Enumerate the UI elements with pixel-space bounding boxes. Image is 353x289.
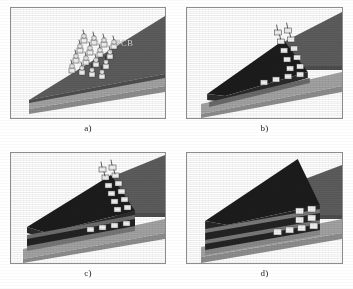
panel-b-illustration — [187, 8, 342, 118]
panel-d-caption: d) — [176, 268, 353, 278]
panel-d-illustration — [187, 153, 342, 263]
panel-b-frame — [186, 7, 343, 119]
panel-d-frame — [186, 152, 343, 264]
panel-a-caption: a) — [0, 123, 176, 133]
panel-c-frame — [10, 152, 166, 264]
panel-c-caption: c) — [0, 268, 176, 278]
panel-c-illustration — [11, 153, 165, 263]
panel-a-frame: PCB — [10, 7, 166, 119]
panel-a-illustration — [11, 8, 165, 118]
panel-b-caption: b) — [176, 123, 353, 133]
panel-grid: PCB a) — [0, 0, 353, 289]
panel-d: d) — [176, 145, 353, 289]
panel-a: PCB a) — [0, 0, 176, 145]
figure-container: PCB a) — [0, 0, 353, 289]
panel-b: b) — [176, 0, 353, 145]
panel-c: c) — [0, 145, 176, 289]
